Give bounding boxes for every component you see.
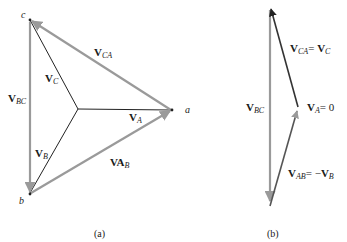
label-v-a: VA [129,111,142,125]
node-dot-b [29,193,32,196]
line-vector-ca-b [271,9,298,107]
label-v-b: VB [35,147,48,161]
phase-vector-c [30,20,78,109]
line-vector-ab [31,111,170,193]
label-v-a-eq-zero: VA= 0 [307,101,335,115]
label-v-ab-eq-neg-vb: VAB= −VB [288,167,334,181]
label-v-ca-eq-vc: VCA= VC [290,42,331,56]
node-label-c: c [21,9,26,20]
line-vector-ca [32,21,171,110]
line-vector-ab-b [270,111,297,206]
label-v-ab: VAB [110,156,129,170]
caption-a: (a) [94,228,105,240]
phase-vector-a [78,109,172,110]
label-v-ca: VCA [94,46,112,60]
label-v-bc: VBC [8,92,27,106]
diagram-a: a b c VCA VBC VC VA VB VAB (a) [8,9,190,240]
node-label-a: a [185,104,190,115]
phasor-diagrams: a b c VCA VBC VC VA VB VAB (a) VBC VCA= … [0,0,347,242]
node-label-b: b [19,195,24,206]
diagram-b: VBC VCA= VC VA= 0 VAB= −VB (b) [246,9,335,240]
label-v-c: VC [45,72,59,86]
node-dot-c [29,19,32,22]
caption-b: (b) [267,228,279,240]
node-dot-a [171,109,174,112]
label-v-bc-b: VBC [246,101,265,115]
